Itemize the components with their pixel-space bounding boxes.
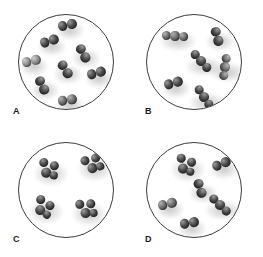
- panel-d-container-circle: [146, 142, 242, 238]
- atom-sphere: [179, 32, 189, 42]
- panel-label-d: D: [145, 235, 152, 244]
- atom-sphere: [89, 208, 99, 218]
- atom-sphere: [195, 187, 207, 199]
- panel-a-container-circle: [18, 14, 114, 110]
- atom-sphere: [30, 54, 42, 66]
- panel-label-c: C: [13, 235, 20, 244]
- atom-sphere: [172, 76, 184, 88]
- panel-label-a: A: [13, 107, 20, 116]
- atom-sphere: [66, 18, 77, 29]
- atom-sphere: [49, 170, 59, 180]
- panel-c-container-circle: [18, 142, 114, 238]
- atom-sphere: [219, 71, 228, 80]
- atom-sphere: [185, 166, 196, 177]
- atom-sphere: [38, 83, 51, 96]
- molecular-diagram-figure: ABCD: [0, 0, 263, 257]
- atom-sphere: [39, 157, 50, 168]
- atom-sphere: [166, 197, 178, 209]
- panel-label-b: B: [145, 107, 152, 116]
- atom-sphere: [176, 153, 187, 164]
- atom-sphere: [212, 35, 224, 47]
- atom-sphere: [66, 94, 77, 105]
- atom-sphere: [188, 217, 199, 228]
- panel-b-container-circle: [146, 14, 242, 110]
- atom-sphere: [95, 66, 107, 78]
